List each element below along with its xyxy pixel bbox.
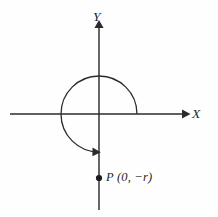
- x-axis-arrowhead: [182, 109, 191, 118]
- x-axis-group: [10, 109, 191, 118]
- y-axis-label: Y: [93, 10, 101, 24]
- point-p-dot: [96, 175, 102, 181]
- y-axis-group: [94, 20, 103, 210]
- figure-container: Y X P (0, −r): [0, 0, 218, 217]
- point-p-group: [96, 175, 102, 181]
- coordinate-diagram-svg: [0, 0, 218, 217]
- point-p-label: P (0, −r): [106, 171, 152, 184]
- x-axis-label: X: [192, 107, 200, 121]
